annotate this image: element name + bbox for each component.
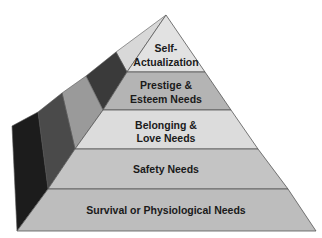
label-esteem-1: Prestige & <box>140 79 192 91</box>
label-self-1: Self- <box>155 42 178 54</box>
label-belonging-2: Love Needs <box>137 132 196 144</box>
label-self-2: Actualization <box>133 56 198 68</box>
label-esteem-2: Esteem Needs <box>130 93 202 105</box>
label-survival: Survival or Physiological Needs <box>86 204 245 216</box>
label-belonging-1: Belonging & <box>135 119 197 131</box>
label-safety: Safety Needs <box>133 163 199 175</box>
pyramid-diagram: Self- Actualization Prestige & Esteem Ne… <box>0 0 322 238</box>
